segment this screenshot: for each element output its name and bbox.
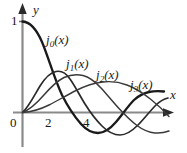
curve-label-j0-arg: (x): [54, 32, 68, 47]
y-axis: [18, 3, 26, 147]
curve-label-j3-arg: (x): [138, 77, 152, 92]
x-tick-label-0: 0: [10, 116, 17, 129]
curve-label-j1-arg: (x): [74, 56, 88, 71]
plot-canvas: [0, 0, 187, 153]
y-tick-label-1: 1: [11, 14, 18, 27]
y-axis-label: y: [33, 3, 39, 16]
x-tick-label-2: 2: [45, 116, 52, 129]
x-axis-label: x: [170, 88, 176, 101]
curve-label-j3-sub: 3: [134, 84, 139, 94]
curve-label-j0: j0(x): [46, 33, 69, 46]
curve-label-j0-sub: 0: [50, 39, 55, 49]
curve-label-j2: j2(x): [96, 68, 119, 81]
curve-label-j1-sub: 1: [70, 63, 75, 73]
curve-label-j3: j3(x): [130, 78, 153, 91]
bessel-function-plot: j0(x) j1(x) j2(x) j3(x) y x 1 0 2 4: [0, 0, 187, 153]
curve-label-j2-sub: 2: [100, 74, 105, 84]
curve-label-j2-arg: (x): [104, 67, 118, 82]
curve-label-j1: j1(x): [66, 57, 89, 70]
x-tick-label-4: 4: [83, 116, 90, 129]
y-axis-arrowhead: [18, 3, 26, 14]
